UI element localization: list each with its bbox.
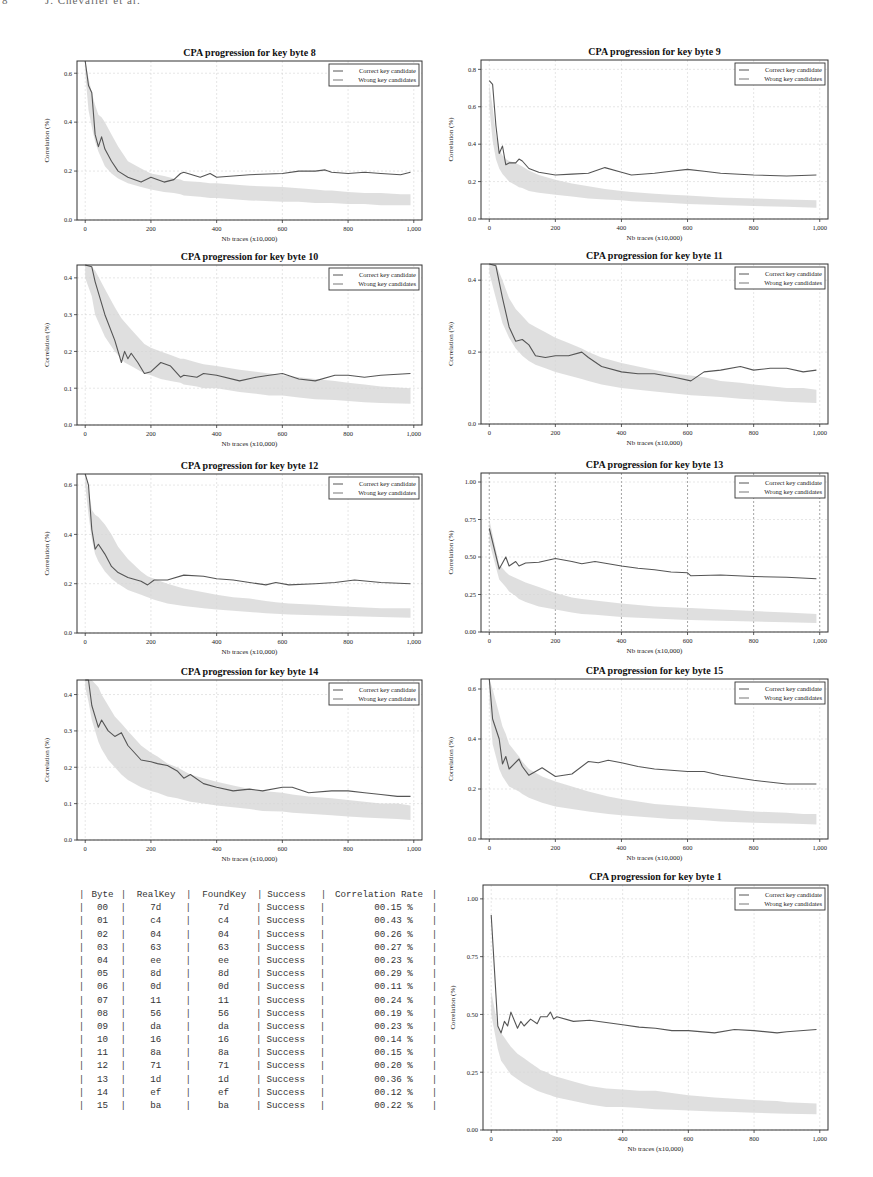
column-separator: |: [185, 1033, 192, 1046]
column-separator: |: [78, 914, 85, 927]
chart-legend: Correct key candidateWrong key candidate…: [735, 888, 825, 910]
cell-byte: 05: [85, 967, 119, 980]
cell-success: Success: [262, 954, 318, 967]
cell-success: Success: [262, 901, 318, 914]
y-tick-label: 0.2: [64, 167, 72, 174]
x-tick-label: 400: [618, 1135, 628, 1142]
cpa-chart-8: CPA progression for key byte 80200400600…: [33, 45, 428, 246]
table-row: |07|11|11|Success|00.24 %|: [78, 994, 438, 1007]
cell-realkey: ef: [127, 1086, 185, 1099]
y-tick-label: 0.2: [64, 348, 72, 355]
cell-foundkey: 1d: [192, 1073, 255, 1086]
chart-legend: Correct key candidateWrong key candidate…: [735, 682, 825, 704]
column-separator: |: [431, 994, 438, 1007]
y-tick-label: 0.50: [467, 1011, 478, 1018]
cell-success: Success: [262, 1073, 318, 1086]
column-separator: |: [78, 1073, 85, 1086]
column-separator: |: [431, 967, 438, 980]
x-axis-label: Nb traces (x10,000): [627, 439, 683, 447]
x-tick-label: 200: [146, 430, 156, 437]
cell-realkey: 63: [127, 941, 185, 954]
column-separator: |: [120, 954, 127, 967]
chart-title: CPA progression for key byte 8: [183, 47, 315, 58]
x-tick-label: 0: [488, 637, 491, 644]
chart-legend: Correct key candidateWrong key candidate…: [735, 267, 825, 289]
x-tick-label: 0: [84, 845, 87, 852]
column-separator: |: [319, 941, 326, 954]
cell-byte: 04: [85, 954, 119, 967]
column-separator: |: [185, 901, 192, 914]
y-tick-label: 0.2: [468, 178, 476, 185]
legend-correct-label: Correct key candidate: [765, 66, 822, 73]
column-separator: |: [185, 1007, 192, 1020]
cell-success: Success: [262, 928, 318, 941]
chart-title: CPA progression for key byte 15: [586, 665, 723, 676]
column-separator: |: [78, 1007, 85, 1020]
x-tick-label: 400: [617, 429, 627, 436]
column-separator: |: [255, 1020, 262, 1033]
column-separator: |: [78, 967, 85, 980]
x-tick-label: 400: [617, 224, 627, 231]
y-tick-label: 0.3: [64, 727, 72, 734]
cell-foundkey: ee: [192, 954, 255, 967]
x-axis-label: Nb traces (x10,000): [222, 648, 278, 656]
x-tick-label: 200: [550, 637, 560, 644]
x-tick-label: 1,000: [812, 844, 827, 851]
table-row: |02|04|04|Success|00.26 %|: [78, 928, 438, 941]
cell-correlation-rate: 00.27 %: [326, 941, 431, 954]
correct-key-line: [489, 529, 816, 579]
table-row: |09|da|da|Success|00.23 %|: [78, 1020, 438, 1033]
cell-realkey: da: [127, 1020, 185, 1033]
x-axis-label: Nb traces (x10,000): [627, 234, 683, 242]
cell-correlation-rate: 00.36 %: [326, 1073, 431, 1086]
cell-byte: 15: [85, 1099, 119, 1112]
cell-correlation-rate: 00.20 %: [326, 1059, 431, 1072]
column-separator: |: [319, 1073, 326, 1086]
x-axis-label: Nb traces (x10,000): [222, 235, 278, 243]
cell-foundkey: ba: [192, 1099, 255, 1112]
y-tick-label: 0.6: [64, 70, 73, 77]
y-tick-label: 0.6: [468, 103, 477, 110]
y-tick-label: 0.2: [468, 785, 476, 792]
column-separator: |: [319, 1020, 326, 1033]
cpa-chart-15: CPA progression for key byte 15020040060…: [437, 663, 834, 865]
column-separator: |: [431, 928, 438, 941]
y-axis-label: Correlation (%): [43, 118, 51, 163]
y-tick-label: 0.2: [64, 764, 72, 771]
x-tick-label: 600: [683, 637, 693, 644]
cell-realkey: 1d: [127, 1073, 185, 1086]
y-tick-label: 0.50: [465, 553, 476, 560]
x-tick-label: 400: [617, 844, 627, 851]
column-separator: |: [185, 954, 192, 967]
cell-realkey: 71: [127, 1059, 185, 1072]
cpa-chart-12: CPA progression for key byte 12020040060…: [33, 458, 428, 659]
x-tick-label: 800: [749, 224, 759, 231]
x-tick-label: 1,000: [812, 637, 827, 644]
x-tick-label: 0: [84, 430, 87, 437]
page-header: 8 J. Chevalier et al.: [0, 0, 873, 6]
column-separator: |: [78, 901, 85, 914]
cell-realkey: ee: [127, 954, 185, 967]
y-tick-label: 0.2: [468, 348, 476, 355]
legend-correct-label: Correct key candidate: [359, 271, 416, 278]
x-tick-label: 600: [683, 224, 693, 231]
cell-success: Success: [262, 967, 318, 980]
column-separator: |: [319, 1007, 326, 1020]
column-separator: |: [78, 980, 85, 993]
column-separator: |: [255, 941, 262, 954]
table-row: |14|ef|ef|Success|00.12 %|: [78, 1086, 438, 1099]
x-tick-label: 600: [683, 429, 693, 436]
cell-realkey: 16: [127, 1033, 185, 1046]
cell-foundkey: ef: [192, 1086, 255, 1099]
col-header-realkey: RealKey: [127, 888, 185, 901]
cell-byte: 01: [85, 914, 119, 927]
y-tick-label: 0.4: [64, 118, 73, 125]
column-separator: |: [185, 941, 192, 954]
cell-byte: 10: [85, 1033, 119, 1046]
column-separator: |: [431, 1073, 438, 1086]
column-separator: |: [78, 1033, 85, 1046]
cell-realkey: 0d: [127, 980, 185, 993]
y-tick-label: 1.00: [465, 478, 476, 485]
table-row: |04|ee|ee|Success|00.23 %|: [78, 954, 438, 967]
cell-byte: 02: [85, 928, 119, 941]
